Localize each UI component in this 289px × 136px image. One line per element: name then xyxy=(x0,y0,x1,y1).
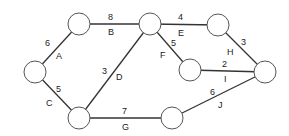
edge-f-name: F xyxy=(160,50,166,60)
edge-i-name: I xyxy=(224,74,227,84)
network-diagram: 6 A 8 B 5 C 3 D 4 E 5 F 7 G 3 H 2 I 6 J xyxy=(0,0,289,136)
edge-e-weight: 4 xyxy=(178,12,183,22)
node-8 xyxy=(161,107,183,129)
edge-j-weight: 6 xyxy=(210,87,215,97)
edge-b-weight: 8 xyxy=(108,12,113,22)
edge-e-name: E xyxy=(178,28,184,38)
edge-g-weight: 7 xyxy=(122,106,127,116)
node-3 xyxy=(139,13,161,35)
node-7 xyxy=(254,61,276,83)
edge-c-name: C xyxy=(46,98,53,108)
edge-a-name: A xyxy=(56,51,62,61)
edge-i-weight: 2 xyxy=(222,59,227,69)
node-4 xyxy=(68,107,90,129)
node-6 xyxy=(179,59,201,81)
node-5 xyxy=(207,14,229,36)
edge-h-weight: 3 xyxy=(241,37,246,47)
edge-f-weight: 5 xyxy=(171,38,176,48)
edge-b-name: B xyxy=(108,27,114,37)
edge-d-weight: 3 xyxy=(102,66,107,76)
edge-g-name: G xyxy=(122,122,129,132)
edge-d xyxy=(79,24,150,118)
edge-a-weight: 6 xyxy=(45,38,50,48)
edge-c-weight: 5 xyxy=(56,84,61,94)
edge-j-name: J xyxy=(218,100,223,110)
node-2 xyxy=(68,13,90,35)
edge-d-name: D xyxy=(116,72,123,82)
edge-h-name: H xyxy=(227,47,234,57)
node-1 xyxy=(24,61,46,83)
